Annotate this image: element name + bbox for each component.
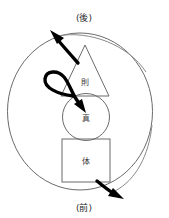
loop-arrow-line [45,72,79,103]
upper-left-arrow-line [57,39,78,63]
lower-guide-arc [115,125,152,191]
bottom-axis-label: (前) [76,202,92,213]
diagram-canvas: 則 真 体 (後) (前) [0,0,169,218]
diagram-svg: 則 真 体 (後) (前) [0,0,169,218]
upper-left-arrow-head [50,30,64,44]
square-node-label: 体 [82,156,90,166]
circle-node-label: 真 [82,113,90,123]
triangle-node-label: 則 [81,78,89,87]
top-axis-label: (後) [76,12,92,23]
